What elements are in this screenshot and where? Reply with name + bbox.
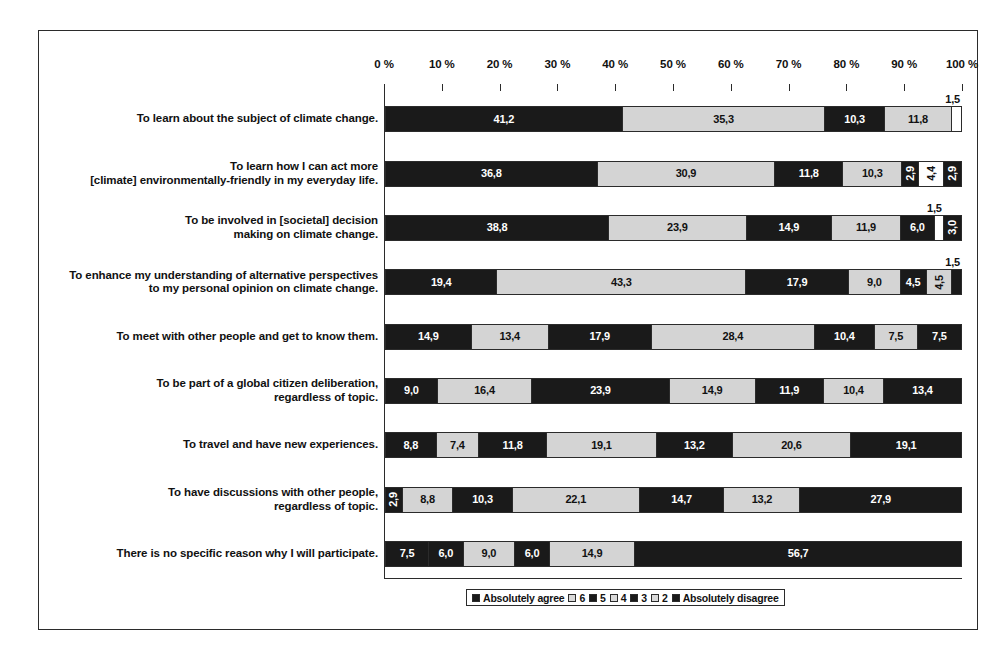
- bar-segment[interactable]: 10,3: [843, 162, 902, 186]
- bar-segment-value: 10,3: [472, 494, 493, 505]
- bar-segment[interactable]: 20,6: [733, 433, 851, 457]
- bar-segment[interactable]: 4,4: [919, 162, 944, 186]
- bar-segment[interactable]: 14,9: [670, 379, 756, 403]
- bar-segment[interactable]: 23,9: [532, 379, 670, 403]
- bar-segment-value: 7,5: [400, 548, 415, 559]
- bar-segment[interactable]: 19,4: [386, 270, 497, 294]
- bar-segment-value: 3,0: [947, 220, 958, 235]
- bar-segment[interactable]: 7,5: [918, 325, 961, 349]
- bar-segment[interactable]: 7,4: [437, 433, 480, 457]
- bar-segment[interactable]: 1,5: [952, 107, 961, 131]
- bar-segment[interactable]: 11,9: [756, 379, 825, 403]
- legend-item[interactable]: 2: [651, 592, 668, 604]
- bar-segment[interactable]: 22,1: [513, 488, 640, 512]
- bar-segment[interactable]: 8,8: [386, 433, 437, 457]
- bar-segment[interactable]: 9,0: [386, 379, 438, 403]
- bar-segment[interactable]: 10,4: [815, 325, 875, 349]
- bar-segment[interactable]: 16,4: [438, 379, 532, 403]
- bar-segment-value: 17,9: [787, 277, 808, 288]
- bar-segment[interactable]: 4,5: [927, 270, 953, 294]
- bar-segment[interactable]: 56,7: [635, 542, 961, 566]
- stacked-bar[interactable]: 41,235,310,311,81,5: [385, 106, 962, 132]
- bar-segment-value: 4,5: [933, 275, 944, 290]
- bar-segment[interactable]: 3,0: [944, 216, 961, 240]
- bar-segment[interactable]: 10,3: [453, 488, 512, 512]
- bar-segment[interactable]: 11,8: [775, 162, 843, 186]
- bar-segment-value: 10,4: [834, 331, 855, 342]
- bar-segment[interactable]: 2,9: [944, 162, 961, 186]
- legend-label: 3: [641, 592, 647, 604]
- category-label: To travel and have new experiences.: [34, 438, 378, 452]
- category-label: To be part of a global citizen deliberat…: [34, 377, 378, 404]
- stacked-bar[interactable]: 8,87,411,819,113,220,619,1: [385, 432, 962, 458]
- bar-segment[interactable]: 14,9: [386, 325, 472, 349]
- bar-segment[interactable]: 19,1: [547, 433, 657, 457]
- legend-item[interactable]: 3: [630, 592, 647, 604]
- bar-segment[interactable]: 13,4: [472, 325, 549, 349]
- bar-segment[interactable]: 14,9: [747, 216, 833, 240]
- category-label-line: To have discussions with other people,: [34, 486, 378, 500]
- bar-segment-value: 10,3: [862, 168, 883, 179]
- legend-item[interactable]: Absolutely disagree: [672, 592, 779, 604]
- bar-segment[interactable]: 2,9: [902, 162, 919, 186]
- bar-segment[interactable]: 2,9: [386, 488, 403, 512]
- bar-segment[interactable]: 14,9: [550, 542, 636, 566]
- legend-item[interactable]: Absolutely agree: [472, 592, 564, 604]
- bar-segment[interactable]: 36,8: [386, 162, 598, 186]
- bar-segment-value: 11,8: [503, 440, 523, 451]
- bar-segment[interactable]: 10,4: [824, 379, 884, 403]
- bar-segment[interactable]: 11,9: [832, 216, 900, 240]
- bar-segment[interactable]: 23,9: [609, 216, 746, 240]
- stacked-bar[interactable]: 14,913,417,928,410,47,57,5: [385, 324, 962, 350]
- bar-segment[interactable]: 43,3: [497, 270, 746, 294]
- bar-segment[interactable]: 28,4: [652, 325, 815, 349]
- category-label-line: To travel and have new experiences.: [34, 438, 378, 452]
- bar-segment[interactable]: 10,3: [825, 107, 884, 131]
- bar-segment[interactable]: 4,5: [901, 270, 927, 294]
- bar-segment-value: 23,9: [590, 385, 611, 396]
- x-axis-tick-label: 40 %: [602, 58, 628, 70]
- bar-segment[interactable]: 13,2: [724, 488, 800, 512]
- bar-segment[interactable]: 30,9: [598, 162, 776, 186]
- stacked-bar[interactable]: 38,823,914,911,96,01,53,0: [385, 215, 962, 241]
- stacked-bar[interactable]: 7,56,09,06,014,956,7: [385, 541, 962, 567]
- bar-segment[interactable]: 9,0: [849, 270, 901, 294]
- bar-segment-value: 9,0: [482, 548, 497, 559]
- bar-segment[interactable]: 27,9: [800, 488, 961, 512]
- bar-segment[interactable]: 14,7: [640, 488, 725, 512]
- bar-segment[interactable]: 35,3: [623, 107, 826, 131]
- bar-segment[interactable]: 17,9: [746, 270, 849, 294]
- bar-segment[interactable]: 8,8: [403, 488, 454, 512]
- bar-segment[interactable]: 7,5: [875, 325, 918, 349]
- bar-segment[interactable]: 38,8: [386, 216, 609, 240]
- stacked-bar[interactable]: 9,016,423,914,911,910,413,4: [385, 378, 962, 404]
- bar-segment[interactable]: 11,8: [885, 107, 953, 131]
- stacked-bar[interactable]: 2,98,810,322,114,713,227,9: [385, 487, 962, 513]
- bar-segment[interactable]: 41,2: [386, 107, 623, 131]
- bar-segment[interactable]: 6,0: [429, 542, 463, 566]
- bar-segment[interactable]: 13,2: [657, 433, 733, 457]
- category-label: To learn about the subject of climate ch…: [34, 112, 378, 126]
- bar-segment[interactable]: 1,5: [935, 216, 944, 240]
- bar-segment-value: 6,0: [910, 222, 925, 233]
- bar-segment[interactable]: 6,0: [515, 542, 549, 566]
- bar-segment[interactable]: 17,9: [549, 325, 652, 349]
- legend-label: Absolutely disagree: [683, 592, 779, 604]
- legend-item[interactable]: 6: [568, 592, 585, 604]
- bar-segment-value: 22,1: [565, 494, 586, 505]
- bar-segment[interactable]: 19,1: [851, 433, 961, 457]
- legend-swatch-icon: [589, 594, 597, 602]
- bar-segment[interactable]: 1,5: [952, 270, 961, 294]
- bar-segment[interactable]: 9,0: [464, 542, 516, 566]
- bar-segment[interactable]: 7,5: [386, 542, 429, 566]
- bar-segment-value: 14,9: [779, 222, 800, 233]
- bar-segment[interactable]: 6,0: [901, 216, 936, 240]
- stacked-bar[interactable]: 36,830,911,810,32,94,42,9: [385, 161, 962, 187]
- legend-item[interactable]: 5: [589, 592, 606, 604]
- bar-segment[interactable]: 11,8: [479, 433, 547, 457]
- x-axis-tick-label: 0 %: [374, 58, 394, 70]
- bar-segment[interactable]: 13,4: [884, 379, 961, 403]
- legend-item[interactable]: 4: [610, 592, 627, 604]
- stacked-bar[interactable]: 19,443,317,99,04,54,51,5: [385, 269, 962, 295]
- x-axis-tick-mark: [962, 84, 963, 91]
